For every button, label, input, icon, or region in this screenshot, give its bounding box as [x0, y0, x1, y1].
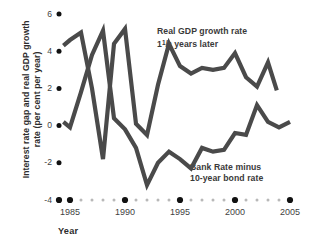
y-axis-tick-dots — [57, 12, 62, 203]
x-tick-dot-minor — [157, 199, 160, 202]
x-tick-dot-major — [67, 197, 73, 203]
x-axis-minor-tick-dots — [58, 199, 281, 202]
y-tick-dot — [57, 160, 62, 165]
x-tick-dot-major — [122, 197, 128, 203]
x-tick-dot-major — [287, 197, 293, 203]
y-tick-dot — [57, 198, 62, 203]
plot-area — [0, 0, 319, 246]
chart-container: Interest rate gap and real GDP growth ra… — [0, 0, 319, 246]
y-tick-dot — [57, 49, 62, 54]
y-tick-dot — [57, 12, 62, 17]
x-tick-dot-minor — [267, 199, 270, 202]
x-tick-dot-minor — [135, 199, 138, 202]
x-tick-dot-minor — [102, 199, 105, 202]
y-tick-dot — [57, 86, 62, 91]
x-tick-dot-major — [177, 197, 183, 203]
x-tick-dot-minor — [113, 199, 116, 202]
x-tick-dot-minor — [223, 199, 226, 202]
x-tick-dot-minor — [168, 199, 171, 202]
x-tick-dot-minor — [212, 199, 215, 202]
x-tick-dot-minor — [256, 199, 259, 202]
x-tick-dot-minor — [91, 199, 94, 202]
x-tick-dot-minor — [146, 199, 149, 202]
x-tick-dot-minor — [245, 199, 248, 202]
x-tick-dot-major — [232, 197, 238, 203]
y-tick-dot — [57, 123, 62, 128]
x-tick-dot-minor — [80, 199, 83, 202]
x-tick-dot-minor — [201, 199, 204, 202]
x-tick-dot-minor — [190, 199, 193, 202]
data-series-layer — [63, 29, 290, 185]
series-line-bank-rate-minus-bond-rate — [63, 31, 290, 185]
x-tick-dot-minor — [278, 199, 281, 202]
